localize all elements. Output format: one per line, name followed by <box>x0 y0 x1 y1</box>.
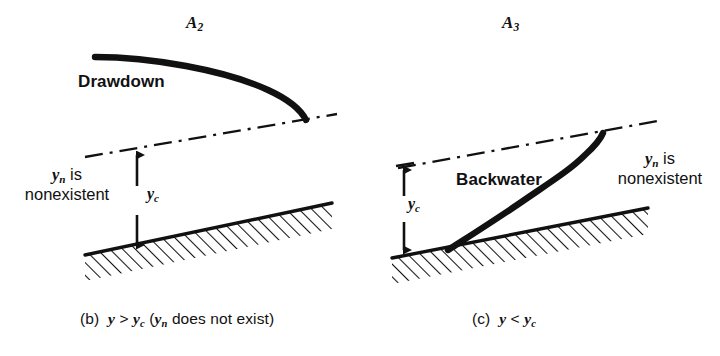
channel-bed-right <box>392 208 648 284</box>
profile-label-a3: A3 <box>502 14 520 34</box>
yn-nonexistent-note-left: yn is nonexistent <box>8 166 126 203</box>
critical-depth-line-left <box>85 114 337 157</box>
backwater-label: Backwater <box>456 171 542 189</box>
channel-bed-left <box>85 203 332 281</box>
drawdown-label: Drawdown <box>78 73 165 91</box>
caption-b: (b) y > yc (yn does not exist) <box>80 311 274 329</box>
yn-nonexistent-note-right: yn is nonexistent <box>600 150 720 187</box>
caption-c: (c) y < yc <box>472 311 536 329</box>
yc-label-left: yc <box>147 186 159 204</box>
profile-label-a2: A2 <box>186 14 204 34</box>
yc-label-right: yc <box>408 196 420 214</box>
panel-c-graphic <box>392 121 658 284</box>
